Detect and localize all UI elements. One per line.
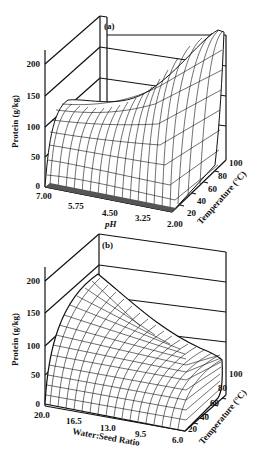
- z-tick: 100: [27, 122, 41, 132]
- plot-b-z-ticks: 200 150 100 50 0: [27, 276, 41, 409]
- z-tick: 100: [27, 341, 41, 351]
- plot-b-panel-label: (b): [102, 240, 113, 250]
- x-tick: 2.00: [167, 219, 183, 229]
- plot-a-x-label: pH: [104, 219, 118, 229]
- x-tick: 20.0: [34, 410, 50, 420]
- x-tick: 5.75: [68, 201, 84, 211]
- y-tick: 60: [208, 184, 218, 194]
- z-tick: 50: [31, 370, 41, 380]
- plot-b-z-label: Protein (g/kg): [10, 313, 20, 366]
- plot-a-surface: [45, 30, 224, 212]
- y-tick: 60: [210, 398, 220, 408]
- y-tick: 100: [229, 158, 243, 168]
- z-tick: 150: [27, 91, 41, 101]
- z-tick: 0: [36, 399, 41, 409]
- x-tick: 4.50: [102, 208, 118, 218]
- y-tick: 20: [188, 424, 198, 434]
- x-tick: 7.00: [36, 191, 52, 201]
- plot-a-panel-label: (a): [104, 21, 115, 31]
- plot-a-z-ticks: 200 150 100 50 0: [27, 59, 41, 191]
- x-tick: 16.5: [66, 416, 82, 426]
- y-tick: 40: [197, 196, 207, 206]
- x-tick: 3.25: [135, 213, 151, 223]
- plot-b: (b) 200 150 100 50 0 Protein (g/kg) 20.0…: [10, 234, 248, 448]
- z-tick: 0: [36, 181, 41, 191]
- y-tick: 20: [187, 208, 197, 218]
- z-tick: 200: [27, 59, 41, 69]
- y-tick: 80: [218, 383, 228, 393]
- x-tick: 6.0: [172, 435, 184, 445]
- z-tick: 150: [27, 308, 41, 318]
- plot-b-surface: [45, 274, 222, 431]
- y-tick: 100: [229, 369, 243, 379]
- plot-a: (a) 200 150 100 50 0 Protein (g/kg) 7.00…: [10, 16, 248, 229]
- z-tick: 50: [31, 152, 41, 162]
- plot-a-z-label: Protein (g/kg): [10, 95, 20, 148]
- z-tick: 200: [27, 276, 41, 286]
- y-tick: 40: [200, 412, 210, 422]
- y-tick: 80: [218, 171, 228, 181]
- figure: (a) 200 150 100 50 0 Protein (g/kg) 7.00…: [0, 0, 258, 468]
